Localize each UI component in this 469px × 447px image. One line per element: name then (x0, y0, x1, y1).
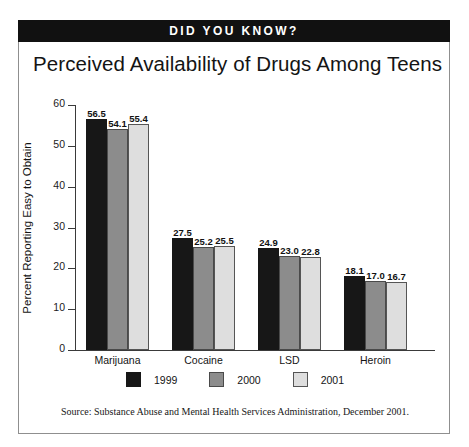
bar-lsd-1999[interactable]: 24.9 (258, 248, 279, 350)
banner-title: DID YOU KNOW? (169, 25, 299, 37)
legend-label-2001: 2001 (321, 374, 344, 386)
y-tick-label-10: 10 (53, 301, 65, 313)
bar-group-marijuana: 56.554.155.4Marijuana (86, 105, 149, 350)
bar-value-label: 27.5 (173, 227, 192, 238)
y-tick-label-0: 0 (59, 342, 65, 354)
bar-marijuana-1999[interactable]: 56.5 (86, 119, 107, 350)
legend-item-1999[interactable]: 1999 (126, 372, 177, 387)
legend-swatch-2001 (293, 372, 308, 387)
y-tick-label-40: 40 (53, 179, 65, 191)
bar-heroin-2000[interactable]: 17.0 (365, 281, 386, 350)
bar-value-label: 17.0 (366, 270, 385, 281)
y-tick-50: 50 (68, 146, 75, 147)
bar-lsd-2001[interactable]: 22.8 (300, 257, 321, 350)
bar-value-label: 54.1 (108, 118, 127, 129)
bar-heroin-1999[interactable]: 18.1 (344, 276, 365, 350)
legend-swatch-2000 (209, 372, 224, 387)
bar-heroin-2001[interactable]: 16.7 (386, 282, 407, 350)
x-tick-label-heroin: Heroin (360, 354, 391, 366)
bar-cocaine-1999[interactable]: 27.5 (172, 238, 193, 350)
bar-value-label: 24.9 (259, 237, 278, 248)
bar-marijuana-2000[interactable]: 54.1 (107, 129, 128, 350)
legend-swatch-1999 (126, 372, 141, 387)
bar-value-label: 18.1 (345, 265, 364, 276)
bar-group-cocaine: 27.525.225.5Cocaine (172, 105, 235, 350)
y-tick-10: 10 (68, 309, 75, 310)
x-tick-label-marijuana: Marijuana (94, 354, 140, 366)
bar-group-lsd: 24.923.022.8LSD (258, 105, 321, 350)
y-tick-label-20: 20 (53, 260, 65, 272)
y-tick-0: 0 (68, 350, 75, 351)
bar-value-label: 16.7 (387, 271, 406, 282)
legend-item-2000[interactable]: 2000 (209, 372, 260, 387)
plot-area: Percent Reporting Easy to Obtain 0102030… (75, 105, 437, 350)
y-tick-label-50: 50 (53, 138, 65, 150)
legend-item-2001[interactable]: 2001 (293, 372, 344, 387)
bar-value-label: 22.8 (301, 246, 320, 257)
bar-value-label: 25.2 (194, 236, 213, 247)
x-axis-line (75, 350, 435, 351)
bar-group-heroin: 18.117.016.7Heroin (344, 105, 407, 350)
y-tick-40: 40 (68, 187, 75, 188)
source-note: Source: Substance Abuse and Mental Healt… (19, 406, 451, 417)
legend-label-1999: 1999 (154, 374, 177, 386)
x-tick-label-lsd: LSD (279, 354, 299, 366)
bar-value-label: 23.0 (280, 245, 299, 256)
bar-value-label: 55.4 (129, 113, 148, 124)
bar-cocaine-2000[interactable]: 25.2 (193, 247, 214, 350)
bar-marijuana-2001[interactable]: 55.4 (128, 124, 149, 350)
y-tick-20: 20 (68, 268, 75, 269)
y-tick-label-60: 60 (53, 97, 65, 109)
figure-container: DID YOU KNOW? Perceived Availability of … (18, 20, 450, 434)
y-tick-60: 60 (68, 105, 75, 106)
y-tick-label-30: 30 (53, 220, 65, 232)
did-you-know-banner: DID YOU KNOW? (18, 20, 450, 42)
legend-label-2000: 2000 (237, 374, 260, 386)
chart-card: Perceived Availability of Drugs Among Te… (18, 42, 450, 434)
x-tick-label-cocaine: Cocaine (184, 354, 223, 366)
chart-legend: 199920002001 (19, 372, 451, 387)
bar-cocaine-2001[interactable]: 25.5 (214, 246, 235, 350)
bar-value-label: 25.5 (215, 235, 234, 246)
y-axis-title: Percent Reporting Easy to Obtain (21, 142, 33, 313)
chart-title: Perceived Availability of Drugs Among Te… (33, 52, 437, 76)
y-tick-30: 30 (68, 228, 75, 229)
bar-value-label: 56.5 (87, 108, 106, 119)
y-axis-line (75, 105, 76, 350)
bar-lsd-2000[interactable]: 23.0 (279, 256, 300, 350)
